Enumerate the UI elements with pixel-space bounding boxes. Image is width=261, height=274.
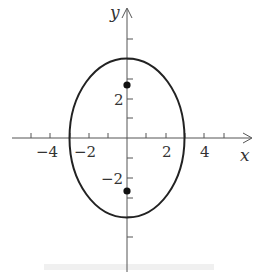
- y-tick-label-2: 2: [114, 91, 124, 109]
- y-tick-label-neg2: −2: [101, 170, 123, 188]
- ellipse-graph: −4 −2 2 4 x 2 −2 y: [0, 0, 261, 274]
- y-axis: 2 −2 y: [101, 2, 133, 272]
- x-tick-label-neg4: −4: [36, 143, 58, 161]
- focus-point-upper: [123, 81, 130, 88]
- y-axis-label: y: [109, 2, 120, 22]
- x-tick-label-neg2: −2: [74, 143, 96, 161]
- x-tick-label-4: 4: [200, 143, 210, 161]
- x-tick-label-2: 2: [162, 143, 172, 161]
- focus-point-lower: [123, 187, 130, 194]
- x-axis-label: x: [240, 145, 250, 165]
- scan-artifact: [44, 264, 214, 270]
- x-axis: −4 −2 2 4 x: [12, 133, 252, 165]
